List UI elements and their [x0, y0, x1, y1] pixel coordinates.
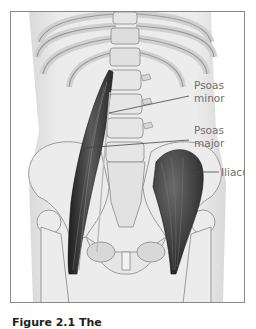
label-psoas-minor: Psoas minor	[194, 79, 225, 105]
label-psoas-major: Psoas major	[194, 124, 224, 150]
figure-frame: Psoas minor Psoas major Iliacus	[10, 11, 245, 303]
figure-caption: Figure 2.1 The	[12, 316, 102, 329]
anatomy-illustration	[11, 12, 245, 303]
label-iliacus: Iliacus	[221, 166, 245, 179]
